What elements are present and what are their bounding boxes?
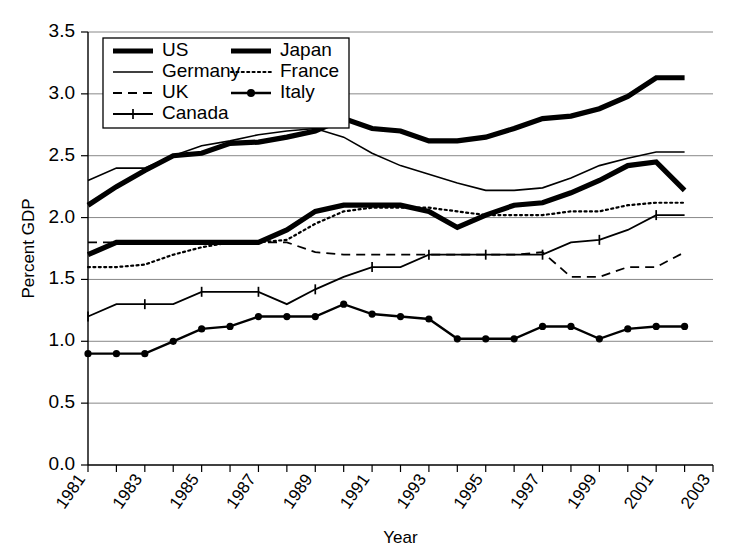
y-axis-tick-label: 1.0 <box>49 329 75 350</box>
x-axis-tick-label: 1985 <box>166 470 203 512</box>
x-axis-tick-label: 1995 <box>450 470 487 512</box>
data-point-marker <box>283 313 290 320</box>
legend-label: Canada <box>162 102 229 123</box>
series-line-canada <box>88 215 685 316</box>
chart-legend: USGermanyUKCanadaJapanFranceItaly <box>103 38 349 128</box>
y-axis-tick-label: 2.5 <box>49 144 75 165</box>
x-axis-tick-label: 1987 <box>222 470 259 512</box>
data-point-marker <box>454 335 461 342</box>
legend-label: US <box>162 39 188 60</box>
legend-label: Germany <box>162 60 241 81</box>
legend-label: France <box>280 60 339 81</box>
y-axis-tick-label: 1.5 <box>49 267 75 288</box>
series-italy <box>84 301 688 358</box>
y-axis-tick-label: 3.5 <box>49 20 75 41</box>
x-axis-tick-label: 1991 <box>336 470 373 512</box>
data-point-marker <box>624 325 631 332</box>
data-point-marker <box>681 323 688 330</box>
chart-container: 0.00.51.01.52.02.53.03.5 198119831985198… <box>0 0 742 554</box>
legend-label: UK <box>162 81 189 102</box>
x-axis-tick-label: 1993 <box>393 470 430 512</box>
series-line-uk <box>88 242 685 277</box>
data-point-marker <box>170 338 177 345</box>
x-axis-tick-label: 1999 <box>563 470 600 512</box>
data-point-marker <box>255 313 262 320</box>
series-line-france <box>88 203 685 267</box>
legend-swatch-marker <box>247 89 255 97</box>
data-point-marker <box>397 313 404 320</box>
series-canada <box>88 210 685 321</box>
data-point-marker <box>596 335 603 342</box>
data-point-marker <box>113 350 120 357</box>
y-axis-labels: 0.00.51.01.52.02.53.03.5 <box>49 20 75 474</box>
x-axis-tick-label: 1981 <box>52 470 89 512</box>
data-point-marker <box>567 323 574 330</box>
y-axis-tick-label: 0.0 <box>49 453 75 474</box>
y-axis-title: Percent GDP <box>19 198 38 298</box>
legend-label: Italy <box>280 81 315 102</box>
data-point-marker <box>368 310 375 317</box>
x-axis-tick-label: 1997 <box>507 470 544 512</box>
series-line-italy <box>88 304 685 353</box>
y-axis-ticks <box>81 32 88 465</box>
data-point-marker <box>511 335 518 342</box>
y-axis-tick-label: 2.0 <box>49 206 75 227</box>
data-point-marker <box>312 313 319 320</box>
x-axis-tick-label: 1989 <box>279 470 316 512</box>
x-axis-ticks <box>88 465 713 472</box>
series-uk <box>88 242 685 277</box>
data-point-marker <box>226 323 233 330</box>
line-chart: 0.00.51.01.52.02.53.03.5 198119831985198… <box>0 0 742 554</box>
y-axis-tick-label: 0.5 <box>49 391 75 412</box>
y-axis-tick-label: 3.0 <box>49 82 75 103</box>
data-point-marker <box>539 323 546 330</box>
legend-label: Japan <box>280 39 332 60</box>
data-point-marker <box>482 335 489 342</box>
series-france <box>88 203 685 267</box>
x-axis-tick-label: 2001 <box>620 470 657 512</box>
data-point-marker <box>653 323 660 330</box>
x-axis-tick-label: 1983 <box>109 470 146 512</box>
data-point-marker <box>425 315 432 322</box>
x-axis-title: Year <box>383 528 418 547</box>
x-axis-labels: 1981198319851987198919911993199519971999… <box>52 470 714 512</box>
data-point-marker <box>340 301 347 308</box>
data-point-marker <box>198 325 205 332</box>
data-point-marker <box>141 350 148 357</box>
x-axis-tick-label: 2003 <box>677 470 714 512</box>
